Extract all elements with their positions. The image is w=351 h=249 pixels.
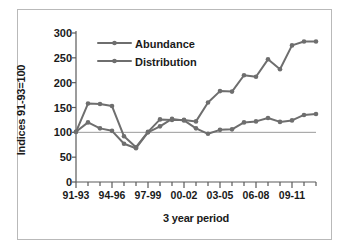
data-point bbox=[266, 116, 271, 121]
data-point bbox=[122, 141, 127, 146]
data-point bbox=[158, 124, 163, 129]
data-point bbox=[242, 120, 247, 125]
data-point bbox=[290, 43, 295, 48]
data-point bbox=[122, 134, 127, 139]
data-point bbox=[230, 89, 235, 94]
data-point bbox=[206, 132, 211, 137]
data-point bbox=[230, 127, 235, 132]
data-point bbox=[98, 102, 103, 107]
data-point bbox=[98, 126, 103, 131]
data-point bbox=[194, 119, 199, 124]
data-point bbox=[278, 120, 283, 125]
data-point bbox=[74, 130, 79, 135]
data-point bbox=[302, 113, 307, 118]
data-point bbox=[134, 146, 139, 151]
data-point bbox=[218, 128, 223, 133]
data-point bbox=[290, 118, 295, 123]
data-point bbox=[170, 117, 175, 122]
legend-marker-sample bbox=[112, 41, 117, 46]
data-point bbox=[146, 130, 151, 135]
data-point bbox=[110, 129, 115, 134]
data-point bbox=[110, 104, 115, 109]
data-point bbox=[266, 57, 271, 62]
data-point bbox=[254, 74, 259, 79]
data-point bbox=[86, 120, 91, 125]
legend-label-abundance: Abundance bbox=[135, 38, 195, 50]
data-point bbox=[86, 101, 91, 106]
legend-marker-sample bbox=[112, 59, 117, 64]
data-point bbox=[194, 126, 199, 131]
data-point bbox=[242, 73, 247, 78]
data-point bbox=[218, 89, 223, 94]
data-point bbox=[278, 67, 283, 72]
data-point bbox=[206, 100, 211, 105]
line-chart: Indices 91-93=100 3 year period 05010015… bbox=[0, 0, 351, 249]
data-point bbox=[314, 39, 319, 44]
data-point bbox=[314, 112, 319, 117]
data-point bbox=[302, 39, 307, 44]
data-point bbox=[182, 118, 187, 123]
legend-label-distribution: Distribution bbox=[135, 56, 197, 68]
data-point bbox=[254, 119, 259, 124]
data-point bbox=[158, 117, 163, 122]
